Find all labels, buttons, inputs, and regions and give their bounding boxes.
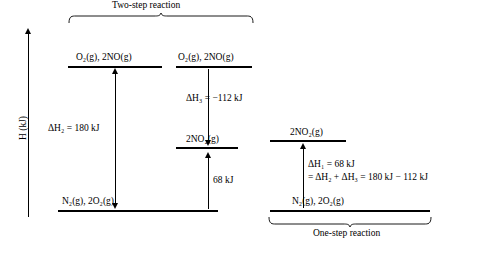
middle-top-energy-level	[176, 66, 252, 68]
right-delta-h1-line2: = ΔH₂ + ΔH₃ = 180 kJ − 112 kJ	[308, 172, 428, 184]
middle-bottom-arrow-shaft	[208, 157, 209, 209]
two-step-reaction-label: Two-step reaction	[112, 0, 180, 12]
middle-middle-energy-level	[176, 147, 238, 149]
one-step-brace-icon	[268, 216, 432, 227]
middle-top-arrow-head-icon	[205, 140, 211, 146]
left-top-level-label: O₂(g), 2NO(g)	[76, 52, 132, 64]
right-top-energy-level	[270, 140, 346, 142]
middle-top-level-label: O₂(g), 2NO(g)	[178, 52, 234, 64]
y-axis-label-text: H (kJ)	[18, 116, 28, 140]
middle-bottom-energy-level	[162, 210, 218, 212]
left-bottom-energy-level	[58, 210, 162, 212]
left-arrow-down-head-icon	[112, 203, 118, 209]
enthalpy-diagram: Two-step reaction H (kJ) O₂(g), 2NO(g) N…	[0, 0, 481, 254]
one-step-reaction-label: One-step reaction	[313, 228, 380, 240]
left-arrow-shaft	[115, 73, 116, 205]
y-axis-line	[28, 33, 29, 217]
middle-top-arrow-shaft	[208, 69, 209, 141]
right-top-level-label: 2NO₂(g)	[290, 127, 323, 139]
middle-middle-level-label: 2NO₂(g)	[186, 134, 219, 146]
right-arrow-shaft	[303, 148, 304, 208]
right-delta-h1-line1: ΔH₁ = 68 kJ	[308, 159, 355, 171]
right-bottom-level-label: N₂(g), 2O₂(g)	[292, 196, 344, 208]
middle-68kj-label: 68 kJ	[213, 175, 233, 187]
left-bottom-level-label: N₂(g), 2O₂(g)	[62, 196, 114, 208]
middle-delta-h3-label: ΔH₃ = −112 kJ	[186, 93, 242, 105]
y-axis-label: H (kJ)	[18, 116, 28, 140]
two-step-brace-icon	[68, 13, 254, 24]
right-bottom-energy-level	[270, 210, 430, 212]
left-delta-h2-label: ΔH₂ = 180 kJ	[48, 123, 99, 135]
